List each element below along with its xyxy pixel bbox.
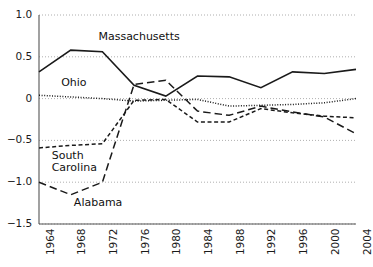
series-label-south-carolina: South Carolina xyxy=(52,150,108,173)
x-tick-label: 2004 xyxy=(361,229,373,255)
x-tick-label: 1992 xyxy=(265,229,277,255)
y-tick-label: 0 xyxy=(0,92,32,104)
series-label-massachusetts: Massachusetts xyxy=(98,31,179,43)
series-label-alabama: Alabama xyxy=(74,197,123,209)
y-tick-label: 1.0 xyxy=(0,8,32,20)
x-tick-label: 1984 xyxy=(202,229,214,255)
series-line-ohio xyxy=(39,95,356,106)
x-tick-label: 1980 xyxy=(170,229,182,255)
x-tick-label: 2000 xyxy=(329,229,341,255)
axis-lines-group xyxy=(39,15,356,224)
y-tick-label: −1.5 xyxy=(0,217,32,229)
x-tick-label: 1964 xyxy=(44,229,56,255)
x-tick-label: 1996 xyxy=(297,229,309,255)
gridlines-group xyxy=(39,15,356,224)
x-tick-label: 1972 xyxy=(107,229,119,255)
x-tick-label: 1968 xyxy=(75,229,87,255)
x-tick-label: 1976 xyxy=(139,229,151,255)
series-line-south-carolina xyxy=(39,99,356,147)
y-tick-label: 0.5 xyxy=(0,50,32,62)
y-tick-label: −1.0 xyxy=(0,175,32,187)
series-label-ohio: Ohio xyxy=(61,77,86,89)
series-line-massachusetts xyxy=(39,50,356,96)
y-tick-label: −0.5 xyxy=(0,133,32,145)
x-tick-label: 1988 xyxy=(234,229,246,255)
